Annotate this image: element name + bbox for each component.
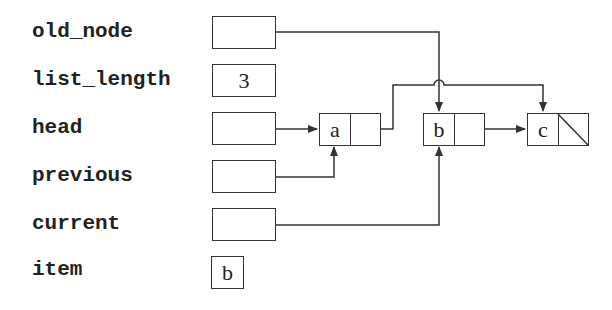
arrow-old-node-to-b [276,32,439,111]
arrow-previous-to-a [276,147,334,177]
pointer-arrows [0,0,612,310]
arrow-current-to-b [276,147,439,225]
arrow-a-to-c [380,80,543,129]
null-slash-icon [558,114,588,145]
